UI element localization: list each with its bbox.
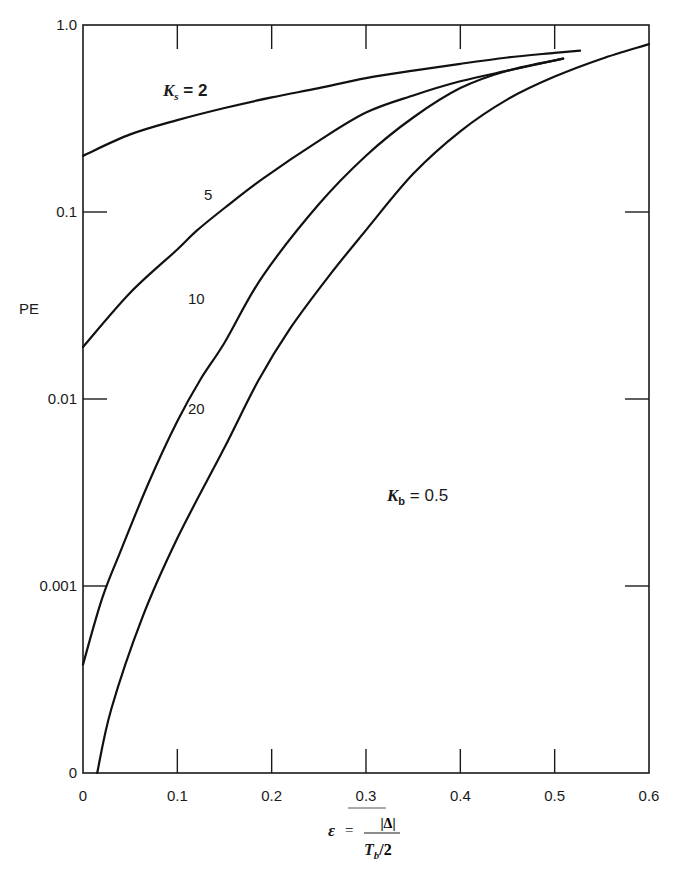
x-axis-equals: = bbox=[345, 822, 353, 838]
x-tick-label: 0.6 bbox=[639, 787, 660, 804]
plot-frame bbox=[83, 25, 649, 773]
x-tick-label: 0.4 bbox=[450, 787, 471, 804]
curve-k-s-5 bbox=[83, 59, 563, 347]
x-tick-label: 0.5 bbox=[544, 787, 565, 804]
curve-label-20: 20 bbox=[188, 400, 205, 417]
y-tick-label: 1.0 bbox=[56, 16, 77, 33]
y-tick-label: 0.01 bbox=[48, 390, 77, 407]
caption-cropped bbox=[40, 877, 640, 881]
y-tick-label: 0 bbox=[69, 764, 77, 781]
x-axis-numerator: |Δ| bbox=[381, 816, 396, 831]
x-axis-eps: ε bbox=[328, 821, 335, 840]
curve-k-s-10 bbox=[83, 59, 563, 665]
x-axis-title: ε = |Δ| Tb/2 bbox=[328, 808, 400, 861]
y-tick-label: 0.1 bbox=[56, 203, 77, 220]
axis-ticks bbox=[83, 25, 649, 773]
curve-label-5: 5 bbox=[204, 186, 212, 203]
chart: 00.10.20.30.40.50.61.00.10.010.0010 Ks =… bbox=[0, 0, 678, 881]
curve-k-s-2 bbox=[83, 51, 580, 156]
plot-border bbox=[83, 25, 649, 773]
x-tick-label: 0.1 bbox=[167, 787, 188, 804]
x-tick-label: 0 bbox=[79, 787, 87, 804]
curve-k-s-20 bbox=[97, 44, 649, 773]
curve-label-10: 10 bbox=[188, 290, 205, 307]
x-axis-denominator: Tb/2 bbox=[364, 841, 392, 861]
ks-label: Ks = 2 bbox=[162, 81, 207, 102]
x-tick-label: 0.3 bbox=[356, 787, 377, 804]
curves bbox=[83, 44, 649, 773]
x-tick-label: 0.2 bbox=[261, 787, 282, 804]
kb-label: Kb = 0.5 bbox=[386, 486, 448, 507]
y-tick-label: 0.001 bbox=[39, 577, 77, 594]
y-axis-title: PE bbox=[19, 300, 39, 317]
